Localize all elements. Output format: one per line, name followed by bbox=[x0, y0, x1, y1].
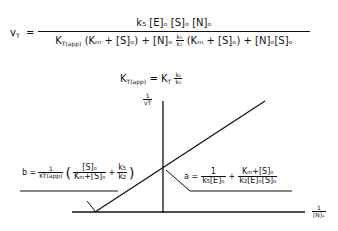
b-pointer bbox=[87, 201, 95, 211]
annotation-b: b = 1KT(app) ( [S]ₒKₘ+[S]ₒ + k₅k₂ ) bbox=[22, 164, 134, 182]
b-plus: + bbox=[108, 168, 115, 177]
a-plus: + bbox=[229, 172, 236, 181]
data-line bbox=[95, 101, 265, 212]
b-frac3: k₅k₂ bbox=[117, 164, 127, 182]
a-label: a = bbox=[184, 172, 198, 181]
plot-lines bbox=[0, 0, 338, 231]
a-frac1: 1k₅[E]ₒ bbox=[201, 168, 225, 186]
y-axis-label: 1vT bbox=[143, 93, 152, 107]
b-paren-open: ( bbox=[65, 165, 70, 181]
a-frac2: Kₘ+[S]ₒk₂[E]ₒ[S]ₒ bbox=[238, 168, 277, 186]
b-paren-close: ) bbox=[129, 165, 134, 181]
b-frac1: 1KT(app) bbox=[38, 166, 63, 180]
b-label: b = bbox=[22, 168, 36, 177]
annotation-a: a = 1k₅[E]ₒ + Kₘ+[S]ₒk₂[E]ₒ[S]ₒ bbox=[184, 168, 277, 186]
x-axis-label: 1[N]ₒ bbox=[312, 205, 326, 219]
b-frac2: [S]ₒKₘ+[S]ₒ bbox=[73, 164, 107, 182]
